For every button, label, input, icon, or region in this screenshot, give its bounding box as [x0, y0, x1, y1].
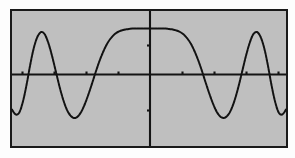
- plot-canvas: [0, 0, 295, 158]
- axes-group: [12, 11, 286, 146]
- waveform-figure: [0, 0, 295, 158]
